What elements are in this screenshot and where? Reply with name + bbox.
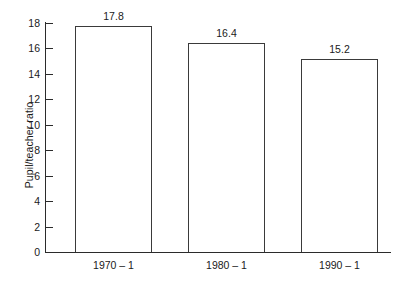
bar-value-label: 17.8 bbox=[75, 11, 152, 22]
plot-area: 17.816.415.2 bbox=[45, 10, 391, 253]
y-tick-label: 14 bbox=[14, 69, 40, 79]
y-tick-label: 6 bbox=[14, 171, 40, 181]
bar-value-label: 16.4 bbox=[188, 28, 265, 39]
bar bbox=[188, 43, 265, 252]
y-tick-label: 0 bbox=[14, 247, 40, 257]
x-category-label: 1980 – 1 bbox=[188, 260, 265, 271]
y-tick-label: 12 bbox=[14, 94, 40, 104]
x-category-label: 1990 – 1 bbox=[301, 260, 378, 271]
bar-chart: Pupil/teacher ratio 181614121086420 17.8… bbox=[0, 0, 401, 290]
y-tick-label: 8 bbox=[14, 145, 40, 155]
y-tick-label: 4 bbox=[14, 196, 40, 206]
bar bbox=[75, 26, 152, 252]
bar-value-label: 15.2 bbox=[301, 44, 378, 55]
x-category-label: 1970 – 1 bbox=[75, 260, 152, 271]
y-tick-label: 16 bbox=[14, 43, 40, 53]
y-tick-label: 10 bbox=[14, 120, 40, 130]
bar bbox=[301, 59, 378, 252]
y-tick-label: 18 bbox=[14, 18, 40, 28]
y-tick-label: 2 bbox=[14, 222, 40, 232]
